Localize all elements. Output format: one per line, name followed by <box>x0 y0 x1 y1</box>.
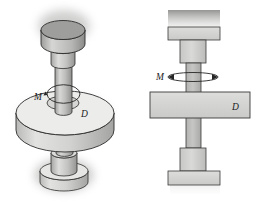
iso-upper-shaft <box>55 63 72 115</box>
shaft-disk-torque-figure: M D <box>0 0 257 215</box>
elevation-top-knob <box>168 27 220 40</box>
figure-canvas: M D <box>0 0 257 215</box>
iso-top-knob <box>41 21 85 54</box>
elevation-label-moment: M <box>155 72 165 82</box>
elevation-top-smear <box>168 10 220 28</box>
iso-label-diameter: D <box>80 109 88 119</box>
elevation-upper-collar <box>180 40 206 63</box>
top-knob-top-face <box>41 21 85 40</box>
elevation-label-diameter: D <box>231 102 239 112</box>
upper-shaft-side <box>55 63 72 115</box>
elevation-lower-collar <box>180 148 206 171</box>
iso-label-moment: M <box>33 92 43 102</box>
elevation-bottom-base <box>168 171 220 185</box>
